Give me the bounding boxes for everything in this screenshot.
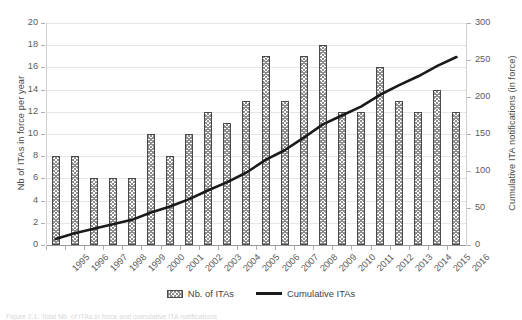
x-axis-tickmark [447, 246, 448, 250]
x-axis-tickmark [161, 246, 162, 250]
y-axis-left-tickmark [41, 178, 45, 179]
x-axis-tick-label: 2004 [241, 252, 263, 274]
y-axis-left-tick-label: 6 [6, 172, 38, 182]
chart-container: Nb of ITAs in force per year Cumulative … [0, 0, 522, 320]
bar [433, 90, 441, 245]
y-axis-left-tickmark [41, 134, 45, 135]
x-axis-tick-label: 2013 [413, 252, 435, 274]
x-axis-tick-label: 1997 [108, 252, 130, 274]
line-swatch-icon [256, 292, 282, 295]
y-axis-right-line [466, 23, 467, 246]
x-axis-tick-label: 2012 [394, 252, 416, 274]
y-axis-right-tick-label: 200 [475, 91, 509, 101]
y-axis-left-tickmark [41, 45, 45, 46]
y-axis-right-tick-label: 50 [475, 202, 509, 212]
y-axis-left-tick-label: 20 [6, 17, 38, 27]
y-axis-left-tickmark [41, 23, 45, 24]
bar [414, 112, 422, 245]
x-axis-tick-label: 2009 [337, 252, 359, 274]
y-axis-right-tickmark [467, 60, 471, 61]
y-axis-left-tickmark [41, 67, 45, 68]
x-axis-tick-label: 2010 [356, 252, 378, 274]
bar [338, 112, 346, 245]
x-axis-tickmark [409, 246, 410, 250]
bar [109, 178, 117, 245]
y-axis-right-tickmark [467, 245, 471, 246]
x-axis-tick-label: 2001 [184, 252, 206, 274]
gridline [46, 67, 466, 68]
bar [128, 178, 136, 245]
x-axis-tick-label: 2014 [432, 252, 454, 274]
y-axis-left-tickmark [41, 112, 45, 113]
y-axis-right-tickmark [467, 134, 471, 135]
bar [395, 101, 403, 245]
y-axis-left-tickmark [41, 223, 45, 224]
chart-legend: Nb. of ITAs Cumulative ITAs [0, 288, 522, 299]
x-axis-tick-label: 1999 [146, 252, 168, 274]
y-axis-right-tickmark [467, 208, 471, 209]
y-axis-left-tickmark [41, 90, 45, 91]
y-axis-right-tick-label: 0 [475, 239, 509, 249]
x-axis-tickmark [332, 246, 333, 250]
y-axis-left-tick-label: 0 [6, 239, 38, 249]
y-axis-left-tick-label: 14 [6, 84, 38, 94]
legend-item-bars: Nb. of ITAs [167, 288, 234, 299]
y-axis-left-tick-label: 4 [6, 195, 38, 205]
y-axis-left-tick-label: 2 [6, 217, 38, 227]
x-axis-tick-label: 2000 [165, 252, 187, 274]
y-axis-right-tick-label: 250 [475, 54, 509, 64]
y-axis-left-tick-label: 8 [6, 150, 38, 160]
bar [90, 178, 98, 245]
y-axis-left-tick-label: 12 [6, 106, 38, 116]
y-axis-left-tick-label: 18 [6, 39, 38, 49]
x-axis-tick-label: 2016 [470, 252, 492, 274]
x-axis-tick-label: 2002 [203, 252, 225, 274]
y-axis-right-tickmark [467, 97, 471, 98]
y-axis-left-tick-label: 16 [6, 61, 38, 71]
bar [357, 112, 365, 245]
x-axis-tick-label: 1998 [127, 252, 149, 274]
bar [204, 112, 212, 245]
x-axis-tickmark [313, 246, 314, 250]
bar [300, 56, 308, 245]
x-axis-tickmark [275, 246, 276, 250]
x-axis-tick-label: 1995 [70, 252, 92, 274]
x-axis-tick-label: 1996 [89, 252, 111, 274]
x-axis-tick-label: 2006 [280, 252, 302, 274]
bar [452, 112, 460, 245]
gridline [46, 90, 466, 91]
y-axis-left-tick-label: 10 [6, 128, 38, 138]
x-axis-tickmark [180, 246, 181, 250]
x-axis-tickmark [390, 246, 391, 250]
gridline [46, 45, 466, 46]
y-axis-right-tickmark [467, 23, 471, 24]
bar-pattern-swatch-icon [167, 290, 183, 298]
bar [242, 101, 250, 245]
x-axis-tickmark [218, 246, 219, 250]
gridline [46, 23, 466, 24]
bar [185, 134, 193, 245]
x-axis-tickmark [256, 246, 257, 250]
y-axis-left-line [46, 23, 47, 246]
x-axis-tickmark [65, 246, 66, 250]
y-axis-left-tickmark [41, 156, 45, 157]
y-axis-right-tick-label: 100 [475, 165, 509, 175]
figure-caption: Figure 2.1. Total Nb. of ITAs in force a… [6, 313, 217, 320]
legend-item-line: Cumulative ITAs [256, 288, 355, 299]
bar [166, 156, 174, 245]
bar [52, 156, 60, 245]
x-axis-tickmark [84, 246, 85, 250]
bar [262, 56, 270, 245]
x-axis-tickmark [237, 246, 238, 250]
x-axis-tick-label: 2011 [375, 252, 396, 273]
x-axis-tickmark [46, 246, 47, 250]
x-axis-tickmark [371, 246, 372, 250]
bar [147, 134, 155, 245]
x-axis-tickmark [199, 246, 200, 250]
legend-label-line: Cumulative ITAs [287, 288, 355, 299]
x-axis-tickmark [141, 246, 142, 250]
x-axis-tickmark [103, 246, 104, 250]
x-axis-tick-label: 2003 [222, 252, 244, 274]
x-axis-tick-label: 2015 [451, 252, 473, 274]
x-axis-tickmark [122, 246, 123, 250]
